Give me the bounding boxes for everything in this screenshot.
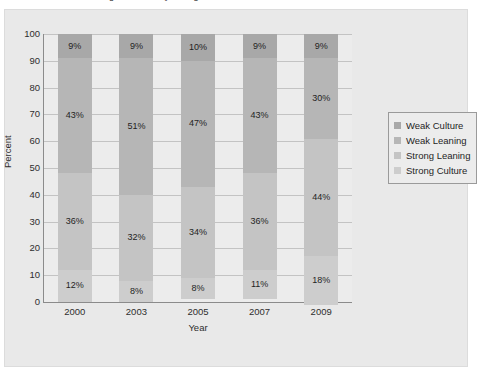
bar-segment[interactable]: 9% bbox=[304, 34, 338, 58]
bar-segment[interactable]: 36% bbox=[243, 173, 277, 269]
bar-segment-label: 11% bbox=[251, 280, 268, 289]
bar-segment[interactable]: 8% bbox=[119, 281, 153, 302]
plot-area: 0102030405060708090100 9%43%36%12%9%51%3… bbox=[43, 34, 352, 303]
bar-segment-label: 30% bbox=[312, 94, 330, 103]
bar-segment[interactable]: 51% bbox=[119, 58, 153, 195]
bar-segment[interactable]: 9% bbox=[119, 34, 153, 58]
bar-segment-label: 36% bbox=[251, 217, 269, 226]
bar-segment[interactable]: 9% bbox=[243, 34, 277, 58]
y-axis-tick-label: 0 bbox=[10, 297, 40, 307]
legend-label: Weak Culture bbox=[406, 120, 463, 131]
legend-label: Weak Leaning bbox=[406, 135, 467, 146]
bar-segment[interactable]: 11% bbox=[243, 270, 277, 299]
bar-segment[interactable]: 10% bbox=[181, 34, 215, 61]
stacked-bar[interactable]: 9%30%44%18% bbox=[304, 34, 338, 302]
y-axis-tick-label: 30 bbox=[10, 217, 40, 227]
bar-segment-label: 9% bbox=[315, 42, 328, 51]
bar-segment-label: 43% bbox=[66, 111, 84, 120]
y-axis-tick-label: 10 bbox=[10, 270, 40, 280]
bar-segment-label: 10% bbox=[189, 43, 207, 52]
bar-segment[interactable]: 9% bbox=[58, 34, 92, 58]
y-axis-tick-label: 100 bbox=[10, 29, 40, 39]
bar-segment-label: 43% bbox=[251, 111, 269, 120]
chart-legend: Weak CultureWeak LeaningStrong LeaningSt… bbox=[388, 112, 477, 184]
chart-figure-panel: Percent 0102030405060708090100 9%43%36%1… bbox=[4, 9, 468, 367]
bar-segment[interactable]: 43% bbox=[58, 58, 92, 173]
x-axis-tick-label: 2003 bbox=[106, 306, 166, 317]
bar-segment[interactable]: 8% bbox=[181, 278, 215, 299]
y-axis-tick-label: 40 bbox=[10, 190, 40, 200]
bar-segment-label: 44% bbox=[312, 193, 330, 202]
bar-segment-label: 51% bbox=[127, 122, 145, 131]
bar-segment-label: 9% bbox=[253, 42, 266, 51]
bar-segment[interactable]: 18% bbox=[304, 256, 338, 304]
legend-item[interactable]: Strong Culture bbox=[394, 163, 470, 178]
legend-swatch-icon bbox=[394, 152, 401, 159]
bar-segment-label: 9% bbox=[68, 42, 81, 51]
legend-label: Strong Culture bbox=[406, 165, 467, 176]
stacked-bar[interactable]: 9%43%36%11% bbox=[243, 34, 277, 302]
y-axis-tick-label: 90 bbox=[10, 56, 40, 66]
legend-swatch-icon bbox=[394, 167, 401, 174]
y-axis-tick-label: 50 bbox=[10, 163, 40, 173]
y-axis-tick-label: 80 bbox=[10, 83, 40, 93]
x-axis-tick-label: 2007 bbox=[230, 306, 290, 317]
bar-segment[interactable]: 36% bbox=[58, 173, 92, 269]
legend-swatch-icon bbox=[394, 137, 401, 144]
legend-item[interactable]: Strong Leaning bbox=[394, 148, 470, 163]
bar-segment-label: 9% bbox=[130, 42, 143, 51]
figure-caption-label: FIGURE 4. bbox=[6, 0, 52, 1]
bar-segment[interactable]: 47% bbox=[181, 61, 215, 187]
bar-segment-label: 12% bbox=[66, 281, 84, 290]
y-axis-tick-label: 60 bbox=[10, 136, 40, 146]
bar-segment-label: 47% bbox=[189, 119, 207, 128]
bar-segment[interactable]: 30% bbox=[304, 58, 338, 138]
figure-caption-text: Percent of organizations by strength of … bbox=[55, 0, 308, 1]
y-axis-tick-label: 20 bbox=[10, 244, 40, 254]
figure-caption: FIGURE 4. Percent of organizations by st… bbox=[6, 0, 466, 4]
stacked-bar[interactable]: 9%43%36%12% bbox=[58, 34, 92, 302]
bar-segment-label: 8% bbox=[191, 284, 204, 293]
y-axis-tick-label: 70 bbox=[10, 110, 40, 120]
bar-segment[interactable]: 34% bbox=[181, 187, 215, 278]
bar-segment-label: 34% bbox=[189, 228, 207, 237]
bar-segment-label: 18% bbox=[312, 276, 330, 285]
bar-segment-label: 36% bbox=[66, 217, 84, 226]
x-axis-tick-label: 2009 bbox=[291, 306, 351, 317]
x-axis-tick-label: 2000 bbox=[45, 306, 105, 317]
x-axis-title: Year bbox=[44, 322, 352, 333]
bar-segment-label: 32% bbox=[127, 233, 145, 242]
legend-item[interactable]: Weak Leaning bbox=[394, 133, 470, 148]
legend-item[interactable]: Weak Culture bbox=[394, 118, 470, 133]
x-axis-tick-label: 2005 bbox=[168, 306, 228, 317]
stacked-bar[interactable]: 9%51%32%8% bbox=[119, 34, 153, 302]
bar-segment-label: 8% bbox=[130, 287, 143, 296]
stacked-bar[interactable]: 10%47%34%8% bbox=[181, 34, 215, 302]
bar-segment[interactable]: 12% bbox=[58, 270, 92, 302]
bar-segment[interactable]: 32% bbox=[119, 195, 153, 281]
legend-swatch-icon bbox=[394, 122, 401, 129]
legend-label: Strong Leaning bbox=[406, 150, 470, 161]
bar-segment[interactable]: 44% bbox=[304, 139, 338, 257]
bar-segment[interactable]: 43% bbox=[243, 58, 277, 173]
